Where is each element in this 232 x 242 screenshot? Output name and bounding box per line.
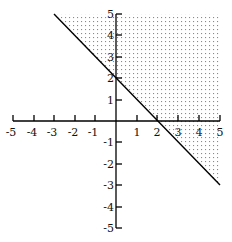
- x-tick-label: -3: [47, 126, 58, 139]
- y-tick-label: -1: [103, 136, 114, 149]
- x-tick-label: -2: [68, 126, 79, 139]
- y-tick-label: 5: [107, 8, 114, 21]
- y-tick-label: -2: [103, 158, 114, 171]
- x-tick-label: 3: [175, 126, 182, 139]
- y-tick-label: 3: [107, 51, 114, 64]
- x-tick-label: 1: [134, 126, 141, 139]
- y-tick-label: 4: [107, 29, 114, 42]
- x-tick-label: -4: [27, 126, 38, 139]
- y-tick-label: -3: [103, 179, 114, 192]
- x-tick-label: 4: [196, 126, 203, 139]
- y-tick-label: 2: [107, 72, 114, 85]
- y-tick-label: -4: [103, 201, 114, 214]
- x-tick-label: 5: [217, 126, 224, 139]
- x-tick-label: -5: [6, 126, 17, 139]
- y-tick-label: -5: [103, 222, 114, 235]
- y-tick-label: 1: [107, 94, 114, 107]
- inequality-graph: -5 -4 -3 -2 -1 1 2 3 4 5 5 4 3 2 1 -1 -2…: [0, 0, 232, 242]
- x-tick-label: 2: [154, 126, 161, 139]
- x-tick-label: -1: [88, 126, 99, 139]
